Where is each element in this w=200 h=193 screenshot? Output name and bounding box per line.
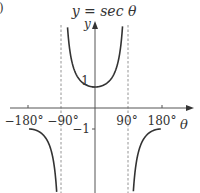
- x-axis-arrow-icon: [186, 105, 194, 111]
- y-axis-arrow-icon: [92, 21, 98, 29]
- curve-left-branch: [29, 129, 57, 192]
- tick-label-y1: 1: [81, 74, 89, 88]
- x-axis-label: θ: [180, 117, 188, 132]
- chart-canvas: y = sec θ ) θ y −180° −90° 90° 180° 1 −1: [0, 0, 200, 193]
- tick-label-90: 90°: [116, 114, 137, 128]
- tick-label-yneg1: −1: [72, 122, 90, 136]
- y-axis-label: y: [83, 17, 91, 31]
- curve-right-branch: [133, 129, 161, 191]
- tick-label-neg180: −180°: [5, 114, 44, 128]
- chart-title: y = sec θ: [71, 3, 137, 19]
- panel-marker: ): [0, 1, 4, 15]
- tick-label-180: 180°: [148, 114, 177, 128]
